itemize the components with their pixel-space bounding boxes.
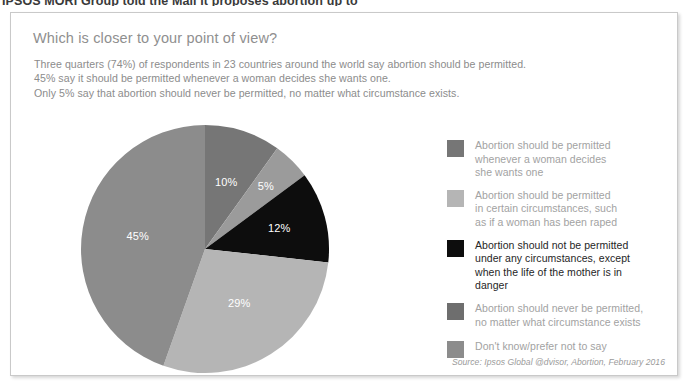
chart-subtitle-line: 45% say it should be permitted whenever … [34, 71, 634, 85]
legend-swatch-icon [447, 303, 464, 320]
chart-subtitle-line: Three quarters (74%) of respondents in 2… [34, 57, 634, 71]
clipped-page-headline: IPSOS MORI Group told the Mail it propos… [2, 0, 562, 6]
chart-subtitle-line: Only 5% say that abortion should never b… [34, 86, 634, 100]
legend-item-line: Abortion should not be permitted [475, 239, 630, 253]
pie-slice-label: 5% [258, 180, 274, 192]
legend-item-line: as if a woman has been raped [475, 216, 617, 230]
legend-swatch-icon [447, 341, 464, 358]
legend-swatch-icon [447, 190, 464, 207]
legend-item-line: when the life of the mother is in [475, 266, 630, 280]
legend-item-line: danger [475, 279, 630, 293]
legend-item-line: in certain circumstances, such [475, 202, 617, 216]
legend-item-line: whenever a woman decides [475, 153, 611, 167]
legend-item-line: Don't know/prefer not to say [475, 340, 607, 354]
pie-slices [81, 125, 329, 373]
legend-item[interactable]: Abortion should be permittedwhenever a w… [447, 139, 665, 180]
legend-item-label: Don't know/prefer not to say [475, 340, 607, 354]
legend-item[interactable]: Don't know/prefer not to say [447, 340, 665, 358]
legend-item-line: she wants one [475, 166, 611, 180]
chart-legend: Abortion should be permittedwhenever a w… [447, 139, 665, 367]
pie-slice-label: 45% [126, 230, 149, 242]
legend-swatch-icon [447, 140, 464, 157]
pie-slice-label: 29% [228, 297, 251, 309]
legend-item-line: Abortion should be permitted [475, 139, 611, 153]
legend-item-label: Abortion should be permittedwhenever a w… [475, 139, 611, 180]
pie-slice-label: 10% [215, 176, 238, 188]
source-note: Source: Ipsos Global @dvisor, Abortion, … [452, 357, 665, 367]
legend-item-line: under any circumstances, except [475, 252, 630, 266]
legend-item[interactable]: Abortion should never be permitted,no ma… [447, 302, 665, 329]
legend-item-line: Abortion should never be permitted, [475, 302, 643, 316]
legend-item-label: Abortion should not be permittedunder an… [475, 239, 630, 293]
legend-item[interactable]: Abortion should not be permittedunder an… [447, 239, 665, 293]
legend-item-line: Abortion should be permitted [475, 189, 617, 203]
chart-card: Which is closer to your point of view? T… [10, 12, 678, 376]
page-title: Which is closer to your point of view? [33, 30, 277, 46]
pie-slice-label: 12% [268, 222, 291, 234]
legend-item-label: Abortion should never be permitted,no ma… [475, 302, 643, 329]
pie-chart-svg: 10%5%12%29%45% [77, 121, 333, 377]
legend-item-line: no matter what circumstance exists [475, 316, 643, 330]
pie-chart: 10%5%12%29%45% [77, 121, 333, 377]
chart-subtitle: Three quarters (74%) of respondents in 2… [34, 57, 634, 100]
legend-item-label: Abortion should be permittedin certain c… [475, 189, 617, 230]
legend-item[interactable]: Abortion should be permittedin certain c… [447, 189, 665, 230]
legend-swatch-icon [447, 240, 464, 257]
